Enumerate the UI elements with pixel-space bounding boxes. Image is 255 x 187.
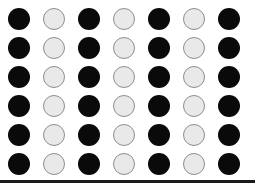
circle-dark-r5-c1	[8, 124, 30, 146]
circle-dark-r1-c7	[218, 8, 240, 30]
circle-dark-r4-c1	[8, 95, 30, 117]
circle-dark-r5-c7	[218, 124, 240, 146]
circle-dark-r6-c5	[148, 153, 170, 175]
circle-light-r4-c2	[43, 95, 65, 117]
circle-dark-r4-c3	[78, 95, 100, 117]
circle-dark-r6-c1	[8, 153, 30, 175]
circle-dark-r4-c5	[148, 95, 170, 117]
circle-dark-r6-c3	[78, 153, 100, 175]
circle-dark-r1-c5	[148, 8, 170, 30]
circle-light-r4-c4	[113, 95, 135, 117]
circle-dark-r1-c1	[8, 8, 30, 30]
circle-dark-r3-c5	[148, 66, 170, 88]
circle-light-r6-c6	[183, 153, 205, 175]
circle-dark-r4-c7	[218, 95, 240, 117]
circle-light-r5-c6	[183, 124, 205, 146]
circle-light-r3-c6	[183, 66, 205, 88]
circle-light-r1-c2	[43, 8, 65, 30]
circle-dark-r6-c7	[218, 153, 240, 175]
circle-dark-r5-c3	[78, 124, 100, 146]
circle-dark-r5-c5	[148, 124, 170, 146]
circle-light-r6-c4	[113, 153, 135, 175]
circle-dark-r2-c1	[8, 37, 30, 59]
circle-light-r3-c2	[43, 66, 65, 88]
circle-dark-r3-c7	[218, 66, 240, 88]
circle-light-r2-c4	[113, 37, 135, 59]
circle-light-r3-c4	[113, 66, 135, 88]
circle-light-r1-c4	[113, 8, 135, 30]
circle-grid	[0, 0, 255, 187]
circle-light-r4-c6	[183, 95, 205, 117]
circle-light-r2-c6	[183, 37, 205, 59]
circle-light-r6-c2	[43, 153, 65, 175]
figure-root: Alternating black and light grey circle …	[0, 0, 255, 187]
circle-dark-r1-c3	[78, 8, 100, 30]
circle-dark-r2-c5	[148, 37, 170, 59]
circle-light-r5-c4	[113, 124, 135, 146]
circle-dark-r2-c7	[218, 37, 240, 59]
baseline-rule	[0, 180, 255, 183]
circle-light-r1-c6	[183, 8, 205, 30]
circle-dark-r3-c3	[78, 66, 100, 88]
circle-dark-r2-c3	[78, 37, 100, 59]
circle-light-r2-c2	[43, 37, 65, 59]
circle-dark-r3-c1	[8, 66, 30, 88]
circle-light-r5-c2	[43, 124, 65, 146]
